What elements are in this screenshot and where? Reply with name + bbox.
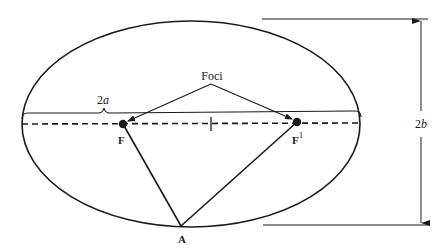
minor-axis-label: 2b [415,117,427,131]
major-axis-label: 2a [97,93,109,107]
line-f-to-a [123,124,181,226]
focus-label-f: F [118,134,125,146]
focus-label-f1: F1 [292,130,303,146]
point-a-label: A [178,233,186,245]
foci-arrow-left [128,84,211,121]
major-axis-dashed-line [22,123,360,124]
line-f1-to-a [181,122,297,226]
foci-label: Foci [201,69,223,83]
major-axis-brace [22,108,361,119]
ellipse-diagram: 2a Foci F F1 A 2b [0,0,445,249]
foci-arrow-right [211,84,292,119]
